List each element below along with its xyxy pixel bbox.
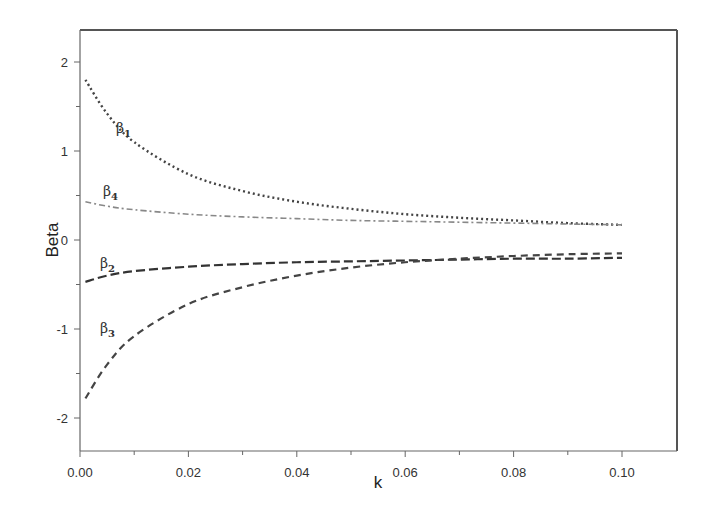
series-label-β3: β3 [100, 320, 115, 339]
series-label-β4: β4 [103, 183, 118, 202]
series-curves [85, 80, 622, 399]
y-tick-label: -1 [56, 322, 68, 337]
x-tick-label: 0.02 [176, 465, 201, 480]
y-tick-label: -2 [56, 411, 68, 426]
series-label-β1: β1 [116, 120, 131, 139]
series-line-β1 [85, 80, 622, 225]
x-tick-label: 0.04 [284, 465, 309, 480]
x-tick-label: 0.00 [67, 465, 92, 480]
y-axis-title: Beta [43, 222, 62, 258]
chart: 0.000.020.040.060.080.10 -2-1012 β1β4β2β… [0, 0, 715, 520]
series-line-β3 [85, 253, 622, 398]
x-axis-ticks: 0.000.020.040.060.080.10 [67, 451, 634, 480]
x-tick-label: 0.08 [501, 465, 526, 480]
series-labels: β1β4β2β3 [100, 120, 131, 339]
x-tick-label: 0.10 [609, 465, 634, 480]
x-tick-label: 0.06 [393, 465, 418, 480]
series-line-β2 [85, 258, 622, 282]
plot-frame [80, 30, 677, 451]
x-axis-title: k [374, 473, 383, 492]
y-tick-label: 1 [61, 144, 68, 159]
series-label-β2: β2 [100, 255, 115, 274]
y-tick-label: 2 [61, 55, 68, 70]
